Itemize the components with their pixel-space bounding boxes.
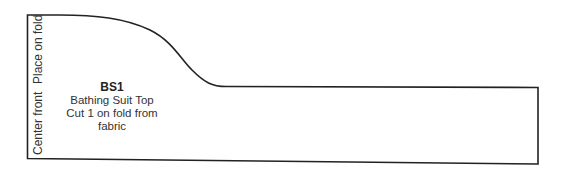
place-on-fold-label: Place on fold [31,15,45,84]
cutting-instruction: Cut 1 on fold from fabric [52,107,172,133]
pattern-info: BS1 Bathing Suit Top Cut 1 on fold from … [52,81,172,133]
center-front-label: Center front [31,92,45,155]
pattern-code: BS1 [52,81,172,94]
pattern-name: Bathing Suit Top [52,94,172,107]
